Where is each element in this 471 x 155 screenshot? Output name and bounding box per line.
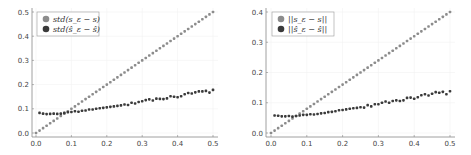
- data-point: [366, 66, 369, 69]
- data-point: [49, 113, 52, 116]
- data-point: [88, 108, 91, 111]
- data-point: [306, 108, 309, 111]
- data-point: [420, 94, 423, 97]
- data-point: [190, 92, 193, 95]
- data-point: [137, 101, 140, 104]
- legend: std(s_ε − s)std(ŝ_ε − ŝ): [37, 12, 100, 36]
- data-point: [180, 95, 183, 98]
- x-tick-label: 0.5: [444, 140, 455, 148]
- y-tick-label: 0.3: [252, 39, 263, 47]
- series-dark: [38, 89, 214, 116]
- data-point: [106, 83, 109, 86]
- y-tick-label: 0.4: [252, 9, 264, 17]
- data-point: [366, 104, 369, 107]
- data-point: [431, 92, 434, 95]
- data-point: [109, 81, 112, 84]
- data-point: [370, 64, 373, 67]
- x-tick-label: 0.2: [101, 140, 112, 148]
- data-point: [70, 108, 73, 111]
- data-point: [277, 127, 280, 130]
- data-point: [352, 76, 355, 79]
- data-point: [102, 107, 105, 110]
- data-point: [98, 88, 101, 91]
- data-point: [130, 66, 133, 69]
- data-point: [190, 25, 193, 28]
- y-tick-label: 0.4: [18, 33, 30, 41]
- x-tick-label: 0.3: [137, 140, 148, 148]
- data-point: [395, 99, 398, 102]
- data-point: [434, 20, 437, 23]
- data-point: [144, 99, 147, 102]
- data-point: [438, 18, 441, 21]
- data-point: [70, 111, 73, 114]
- y-tick-label: 0.5: [18, 9, 29, 17]
- data-point: [148, 98, 151, 101]
- data-point: [116, 76, 119, 79]
- data-point: [59, 115, 62, 118]
- data-point: [409, 37, 412, 40]
- x-tick-label: 0.1: [66, 140, 77, 148]
- data-point: [413, 98, 416, 101]
- data-point: [123, 103, 126, 106]
- data-point: [84, 109, 87, 112]
- data-point: [113, 105, 116, 108]
- data-point: [431, 23, 434, 26]
- data-point: [67, 111, 70, 114]
- data-point: [116, 105, 119, 108]
- data-point: [166, 42, 169, 45]
- legend-marker-icon: [278, 16, 285, 23]
- data-point: [205, 16, 208, 19]
- data-point: [109, 106, 112, 109]
- data-point: [381, 57, 384, 60]
- data-point: [95, 91, 98, 94]
- data-point: [91, 93, 94, 96]
- data-point: [363, 106, 366, 109]
- data-point: [356, 74, 359, 77]
- data-point: [194, 91, 197, 94]
- y-tick-label: 0.1: [18, 105, 29, 113]
- right-chart: 0.00.10.20.30.40.00.10.20.30.40.5||s_ε −…: [235, 0, 471, 155]
- data-point: [338, 109, 341, 112]
- data-point: [327, 111, 330, 114]
- data-point: [402, 42, 405, 45]
- data-point: [309, 113, 312, 116]
- data-point: [95, 108, 98, 111]
- data-point: [42, 112, 45, 115]
- data-point: [106, 106, 109, 109]
- data-point: [288, 120, 291, 123]
- data-point: [309, 105, 312, 108]
- data-point: [280, 115, 283, 118]
- data-point: [291, 115, 294, 118]
- data-point: [159, 98, 162, 101]
- x-tick-label: 0.1: [301, 140, 312, 148]
- data-point: [127, 69, 130, 72]
- data-point: [352, 107, 355, 110]
- legend-marker-icon: [278, 26, 285, 33]
- data-point: [381, 101, 384, 104]
- data-point: [402, 99, 405, 102]
- data-point: [187, 92, 190, 95]
- data-point: [416, 32, 419, 35]
- y-tick-label: 0.3: [18, 57, 29, 65]
- data-point: [424, 93, 427, 96]
- y-tick-label: 0.0: [18, 130, 29, 138]
- data-point: [356, 107, 359, 110]
- data-point: [345, 81, 348, 84]
- data-point: [427, 94, 430, 97]
- legend-label: std(ŝ_ε − ŝ): [53, 25, 100, 34]
- data-point: [152, 99, 155, 102]
- x-tick-label: 0.4: [172, 140, 184, 148]
- data-point: [45, 113, 48, 116]
- data-point: [123, 71, 126, 74]
- data-point: [298, 114, 301, 117]
- data-point: [98, 107, 101, 110]
- data-point: [212, 11, 215, 14]
- data-point: [144, 57, 147, 60]
- data-point: [345, 108, 348, 111]
- x-tick-label: 0.2: [337, 140, 348, 148]
- data-point: [63, 112, 66, 115]
- x-tick-label: 0.5: [207, 140, 218, 148]
- data-point: [141, 59, 144, 62]
- data-point: [442, 16, 445, 19]
- data-point: [120, 74, 123, 77]
